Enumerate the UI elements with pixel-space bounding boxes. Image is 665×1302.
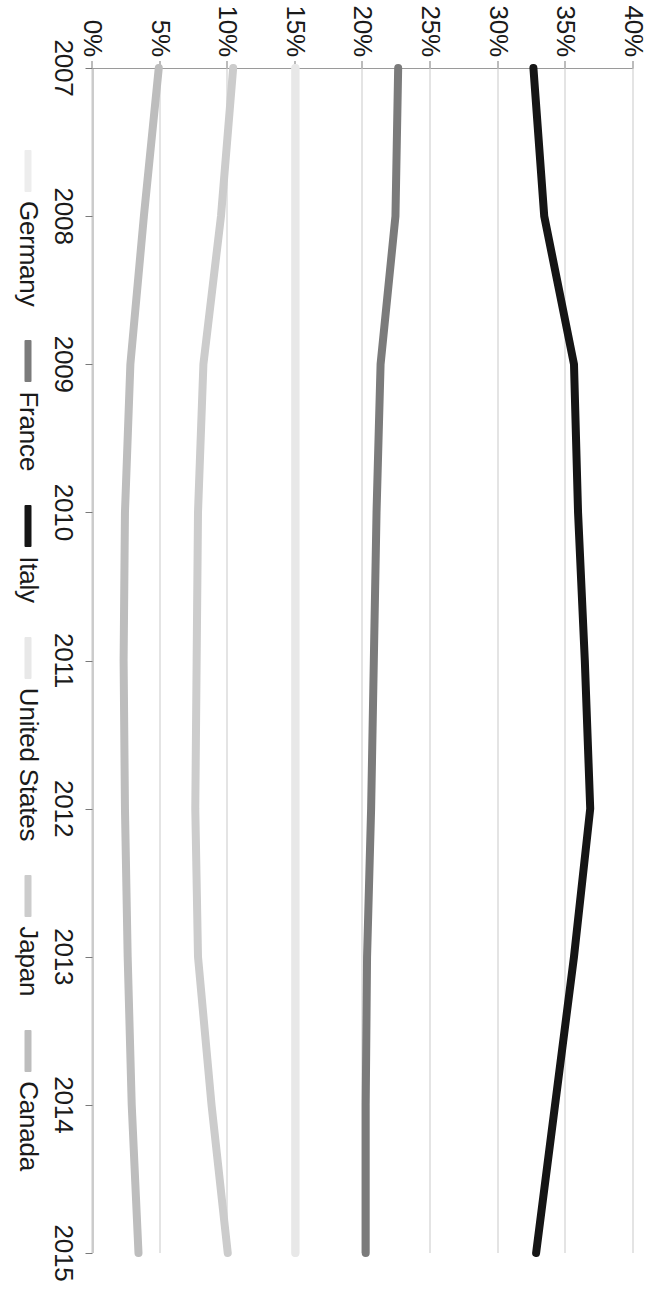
y-tick-mark xyxy=(91,61,92,68)
legend-item-canada[interactable]: Canada xyxy=(13,1030,44,1171)
legend-label: France xyxy=(13,391,44,471)
legend-label: Italy xyxy=(13,556,44,603)
y-tick-label: 5% xyxy=(144,20,175,57)
legend-item-italy[interactable]: Italy xyxy=(13,505,44,603)
x-tick-label: 2013 xyxy=(47,928,78,985)
y-tick-label: 15% xyxy=(279,6,310,57)
x-tick-label: 2012 xyxy=(47,780,78,837)
x-tick-label: 2010 xyxy=(47,484,78,541)
x-tick-label: 2008 xyxy=(47,188,78,245)
y-tick-label: 35% xyxy=(550,6,581,57)
series-line-france xyxy=(365,68,397,1253)
series-line-canada xyxy=(123,68,158,1253)
rotated-chart-stage: 0%5%10%15%20%25%30%35%40% 20072008200920… xyxy=(0,0,665,1302)
legend-swatch-icon xyxy=(25,637,32,679)
plot-area: 0%5%10%15%20%25%30%35%40% 20072008200920… xyxy=(92,68,633,1253)
x-tick-mark xyxy=(85,957,92,958)
x-tick-mark xyxy=(85,68,92,69)
legend-label: Canada xyxy=(13,1081,44,1171)
x-tick-mark xyxy=(85,216,92,217)
y-tick-label: 40% xyxy=(618,6,649,57)
legend-item-united-states[interactable]: United States xyxy=(13,637,44,842)
legend-label: Germany xyxy=(13,201,44,307)
y-tick-label: 0% xyxy=(77,20,108,57)
legend-item-japan[interactable]: Japan xyxy=(13,875,44,996)
legend-swatch-icon xyxy=(25,1030,32,1072)
x-tick-mark xyxy=(85,364,92,365)
y-tick-mark xyxy=(497,61,498,68)
x-tick-mark xyxy=(85,1253,92,1254)
series-line-italy xyxy=(533,68,590,1253)
y-tick-mark xyxy=(429,61,430,68)
line-chart: 0%5%10%15%20%25%30%35%40% 20072008200920… xyxy=(0,0,665,1302)
legend-swatch-icon xyxy=(25,340,32,382)
y-tick-mark xyxy=(226,61,227,68)
legend-label: United States xyxy=(13,688,44,842)
y-tick-mark xyxy=(362,61,363,68)
y-tick-label: 10% xyxy=(212,6,243,57)
x-tick-mark xyxy=(85,512,92,513)
legend-swatch-icon xyxy=(25,875,32,917)
x-tick-label: 2014 xyxy=(47,1076,78,1133)
legend-item-germany[interactable]: Germany xyxy=(13,150,44,307)
legend-swatch-icon xyxy=(25,505,32,547)
legend-label: Japan xyxy=(13,926,44,996)
legend-swatch-icon xyxy=(25,150,32,192)
x-tick-mark xyxy=(85,809,92,810)
y-tick-label: 25% xyxy=(415,6,446,57)
chart-page: 0%5%10%15%20%25%30%35%40% 20072008200920… xyxy=(0,0,665,1302)
series-line-japan xyxy=(195,68,233,1253)
y-tick-label: 20% xyxy=(347,6,378,57)
x-tick-label: 2009 xyxy=(47,336,78,393)
chart-legend: GermanyFranceItalyUnited StatesJapanCana… xyxy=(6,68,50,1253)
x-tick-label: 2007 xyxy=(47,39,78,96)
legend-item-france[interactable]: France xyxy=(13,340,44,471)
x-tick-mark xyxy=(85,661,92,662)
x-tick-mark xyxy=(85,1105,92,1106)
y-tick-label: 30% xyxy=(482,6,513,57)
y-tick-mark xyxy=(564,61,565,68)
y-tick-mark xyxy=(632,61,633,68)
x-tick-label: 2015 xyxy=(47,1224,78,1281)
x-tick-label: 2011 xyxy=(47,633,78,688)
series-lines xyxy=(92,68,633,1253)
